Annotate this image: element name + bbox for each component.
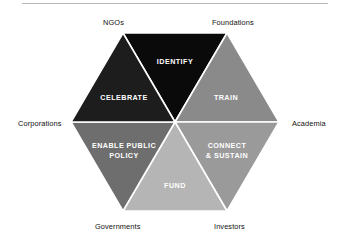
segment-label-connect-line1: CONNECT xyxy=(208,141,247,150)
segment-label-policy-line2: POLICY xyxy=(109,151,138,160)
node-label-ngos: NGOs xyxy=(103,18,124,27)
node-label-governments: Governments xyxy=(95,222,140,231)
segment-label-policy-line1: ENABLE PUBLIC xyxy=(92,141,156,150)
segment-label-train: TRAIN xyxy=(214,93,238,102)
hexagon-diagram: IDENTIFY TRAIN CONNECT & SUSTAIN FUND EN… xyxy=(0,0,350,245)
diagram-canvas: IDENTIFY TRAIN CONNECT & SUSTAIN FUND EN… xyxy=(0,0,350,245)
segment-label-connect-line2: & SUSTAIN xyxy=(206,151,248,160)
segment-label-fund: FUND xyxy=(164,181,186,190)
segment-label-identify: IDENTIFY xyxy=(157,57,193,66)
node-label-academia: Academia xyxy=(292,119,326,128)
node-label-investors: Investors xyxy=(214,222,245,231)
node-label-foundations: Foundations xyxy=(212,18,254,27)
segment-label-celebrate: CELEBRATE xyxy=(100,93,147,102)
node-label-corporations: Corporations xyxy=(18,119,62,128)
